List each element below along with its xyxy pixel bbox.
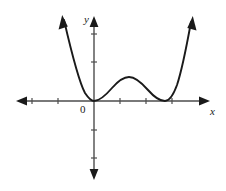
coordinate-plane-svg xyxy=(0,0,226,191)
curve-right-arrowhead xyxy=(187,16,196,30)
x-axis-label: x xyxy=(210,106,215,117)
polynomial-curve xyxy=(64,20,191,101)
x-axis-right-arrowhead xyxy=(199,97,210,106)
y-axis-label: y xyxy=(84,14,89,25)
graph-figure: x y 0 xyxy=(0,0,226,191)
y-axis-bottom-arrowhead xyxy=(90,169,99,180)
origin-label: 0 xyxy=(80,104,86,115)
y-axis-top-arrowhead xyxy=(90,16,99,27)
x-axis-left-arrowhead xyxy=(16,97,27,106)
